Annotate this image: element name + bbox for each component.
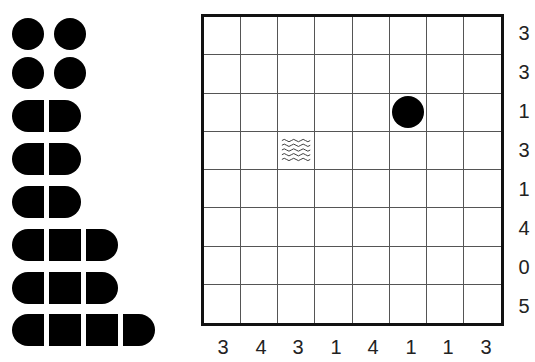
grid-cell[interactable] [464, 285, 501, 323]
row-clue: 1 [514, 100, 534, 123]
grid-cell[interactable] [278, 17, 315, 55]
grid-cell[interactable] [315, 285, 352, 323]
cruiser-2 [12, 272, 118, 304]
row-clue: 4 [514, 217, 534, 240]
grid-cell[interactable] [204, 170, 241, 208]
grid-cell[interactable] [278, 247, 315, 285]
grid-cell[interactable] [427, 170, 464, 208]
grid-cell[interactable] [204, 285, 241, 323]
grid-cell[interactable] [204, 132, 241, 170]
grid-cell[interactable] [278, 170, 315, 208]
col-clue: 3 [279, 336, 317, 359]
grid-cell[interactable] [241, 132, 278, 170]
water-icon [280, 134, 312, 167]
submarine-icon [12, 57, 44, 89]
grid-cell[interactable] [278, 55, 315, 93]
grid-cell[interactable] [390, 208, 427, 246]
grid-cell[interactable] [464, 208, 501, 246]
grid-cell[interactable] [204, 94, 241, 132]
ship-mid-icon [49, 314, 81, 346]
destroyer-3 [12, 186, 81, 218]
row-clue: 3 [514, 22, 534, 45]
grid-cell[interactable] [241, 285, 278, 323]
destroyer-1 [12, 100, 81, 132]
puzzle-grid [201, 14, 504, 326]
grid-cell[interactable] [464, 17, 501, 55]
ship-stern-icon [49, 186, 81, 218]
grid-cell[interactable] [241, 208, 278, 246]
row-clue: 1 [514, 178, 534, 201]
grid-cell[interactable] [278, 285, 315, 323]
grid-cell[interactable] [315, 247, 352, 285]
col-clue: 3 [204, 336, 242, 359]
ship-stern-icon [49, 100, 81, 132]
grid-cell[interactable] [390, 17, 427, 55]
grid-cell[interactable] [353, 208, 390, 246]
grid-cell[interactable] [390, 55, 427, 93]
grid-cell[interactable] [204, 17, 241, 55]
grid-cell[interactable] [353, 94, 390, 132]
grid-cell[interactable] [315, 94, 352, 132]
ship-bow-icon [12, 186, 44, 218]
col-clue: 3 [467, 336, 505, 359]
grid-cell[interactable] [390, 132, 427, 170]
grid-cell[interactable] [427, 55, 464, 93]
grid-cell[interactable] [353, 55, 390, 93]
grid-cell[interactable] [353, 247, 390, 285]
grid-cell[interactable] [464, 170, 501, 208]
battleship [12, 314, 155, 346]
grid-cell[interactable] [353, 132, 390, 170]
grid-cell[interactable] [427, 17, 464, 55]
grid-cell[interactable] [390, 170, 427, 208]
destroyer-2 [12, 143, 81, 175]
grid-cell[interactable] [390, 247, 427, 285]
grid-cell[interactable] [353, 285, 390, 323]
grid-cell[interactable] [315, 132, 352, 170]
grid-cell[interactable] [464, 94, 501, 132]
submarine-icon [54, 18, 86, 50]
grid-cell[interactable] [427, 247, 464, 285]
ship-stern-icon [86, 229, 118, 261]
grid-cell[interactable] [204, 55, 241, 93]
grid-cell[interactable] [204, 247, 241, 285]
ship-mid-icon [86, 314, 118, 346]
grid-cell[interactable] [353, 170, 390, 208]
grid-cell[interactable] [278, 208, 315, 246]
grid-cell[interactable] [241, 94, 278, 132]
row-clue: 0 [514, 256, 534, 279]
grid-cell[interactable] [241, 247, 278, 285]
grid-cell[interactable] [204, 208, 241, 246]
grid-cell[interactable] [353, 17, 390, 55]
grid-cell[interactable] [427, 208, 464, 246]
grid-cell[interactable] [241, 17, 278, 55]
grid-cell[interactable] [390, 285, 427, 323]
row-clue: 5 [514, 295, 534, 318]
submarine-icon [12, 18, 44, 50]
col-clue: 1 [392, 336, 430, 359]
grid-cell[interactable] [427, 94, 464, 132]
ship-bow-icon [12, 143, 44, 175]
grid-cell[interactable] [315, 17, 352, 55]
grid-cell[interactable] [464, 55, 501, 93]
grid-cell[interactable] [278, 94, 315, 132]
grid-cell[interactable] [464, 247, 501, 285]
grid-cell[interactable] [315, 208, 352, 246]
ship-mid-icon [49, 272, 81, 304]
grid-cell[interactable] [241, 170, 278, 208]
grid-cell[interactable] [241, 55, 278, 93]
row-clue: 3 [514, 139, 534, 162]
submarine-pair-1 [12, 18, 86, 50]
grid-cell[interactable] [464, 132, 501, 170]
col-clue: 4 [354, 336, 392, 359]
grid-cell[interactable] [315, 170, 352, 208]
col-clue: 4 [242, 336, 280, 359]
grid-cell[interactable] [427, 285, 464, 323]
grid-cell[interactable] [278, 132, 315, 170]
col-clue: 1 [429, 336, 467, 359]
grid-cell[interactable] [315, 55, 352, 93]
grid-cell[interactable] [427, 132, 464, 170]
grid-cell[interactable] [390, 94, 427, 132]
ship-bow-icon [12, 272, 44, 304]
ship-bow-icon [12, 314, 44, 346]
ship-stern-icon [49, 143, 81, 175]
